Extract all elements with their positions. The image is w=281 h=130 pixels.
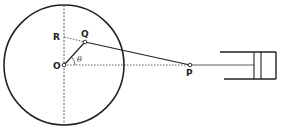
label-q: Q (81, 29, 89, 39)
piston (254, 52, 261, 79)
joint-p (188, 63, 192, 67)
cylinder (220, 52, 276, 79)
crank-diagram: R Q O θ P (0, 0, 281, 130)
label-o: O (53, 61, 61, 71)
label-r: R (53, 32, 60, 42)
joint-o (62, 63, 66, 67)
label-p: P (186, 68, 193, 78)
joint-q (83, 40, 87, 44)
label-theta: θ (77, 55, 82, 64)
theta-arc (72, 57, 76, 65)
connecting-rod-qp (85, 42, 190, 65)
